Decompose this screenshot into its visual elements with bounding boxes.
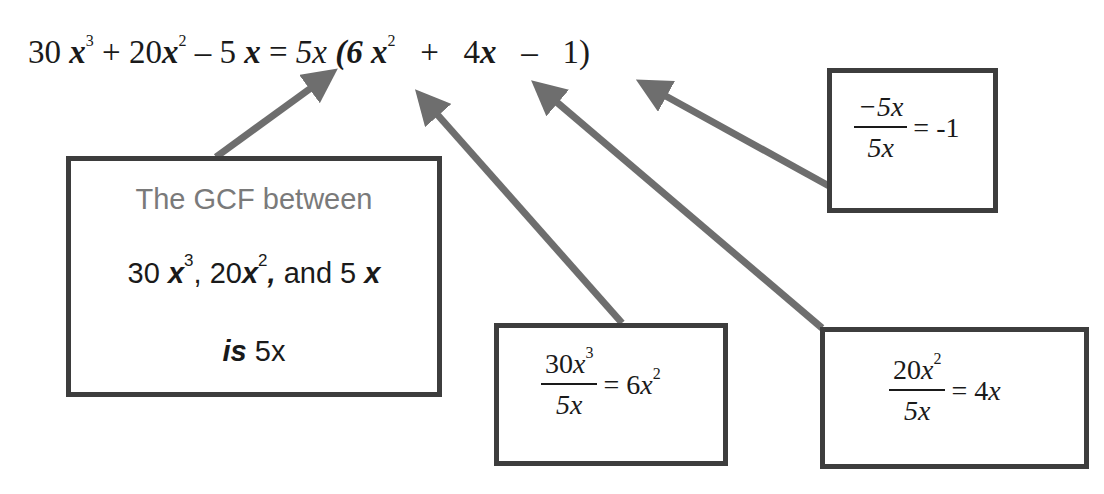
result: = 4x bbox=[951, 375, 1000, 407]
fraction-neg5x-over-5x: −5x 5x = -1 bbox=[854, 91, 959, 164]
gcf-explanation-box: The GCF between 30 x3, 20x2, and 5 x is … bbox=[66, 156, 442, 397]
result: = -1 bbox=[913, 112, 959, 144]
gcf-heading: The GCF between bbox=[71, 183, 437, 216]
division-box-6x2: 30x3 5x = 6x2 bbox=[494, 323, 728, 466]
arrow-4x-to-term2 bbox=[546, 93, 822, 328]
fraction-20x2-over-5x: 20x2 5x = 4x bbox=[889, 354, 1001, 427]
division-box-4x: 20x2 5x = 4x bbox=[820, 327, 1089, 469]
numerator: 20x2 bbox=[889, 354, 945, 391]
result: = 6x2 bbox=[603, 369, 660, 401]
denominator: 5x bbox=[867, 128, 893, 164]
arrow-neg1-to-term3 bbox=[653, 89, 829, 186]
division-box-neg1: −5x 5x = -1 bbox=[827, 68, 998, 213]
denominator: 5x bbox=[904, 391, 930, 427]
gcf-result: is 5x bbox=[71, 335, 437, 368]
numerator: −5x bbox=[854, 91, 907, 128]
arrow-gcf-to-5x bbox=[216, 80, 322, 157]
denominator: 5x bbox=[556, 385, 582, 421]
fraction-30x3-over-5x: 30x3 5x = 6x2 bbox=[541, 348, 661, 421]
numerator: 30x3 bbox=[541, 348, 597, 385]
gcf-terms: 30 x3, 20x2, and 5 x bbox=[71, 257, 437, 290]
